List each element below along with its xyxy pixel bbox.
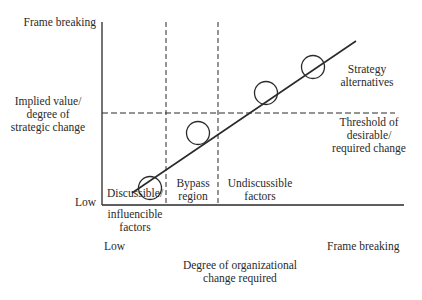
- region-label-line: Undiscussible: [222, 177, 298, 190]
- region-bypass-label: Bypass region: [168, 177, 218, 203]
- region-label-line: region: [168, 190, 218, 203]
- region-label-line: Bypass: [168, 177, 218, 190]
- strategy-alternative-circle: [255, 82, 278, 105]
- strategy-alternative-circle: [187, 122, 210, 145]
- y-axis-low-label: Low: [0, 196, 96, 209]
- region-label-line: factors: [103, 221, 167, 234]
- threshold-label: Threshold of desirable/ required change: [322, 116, 416, 155]
- strategy-label-line: Strategy: [332, 63, 402, 76]
- region-undiscussible-label: Undiscussible factors: [222, 177, 298, 203]
- y-axis-title-line: strategic change: [0, 121, 96, 134]
- x-axis-right-label: Frame breaking: [327, 240, 400, 253]
- strategy-alternative-circle: [302, 56, 325, 79]
- threshold-label-line: desirable/: [322, 129, 416, 142]
- y-axis-top-label: Frame breaking: [0, 16, 96, 29]
- region-label-line: Discussible/: [103, 187, 167, 200]
- x-axis-low-label: Low: [104, 240, 125, 253]
- y-axis-title-line: Implied value/: [0, 95, 96, 108]
- region-discussible-label-continued: influencible factors: [103, 208, 167, 234]
- x-axis-title-line: change required: [170, 272, 310, 285]
- threshold-label-line: Threshold of: [322, 116, 416, 129]
- region-label-line: influencible: [103, 208, 167, 221]
- region-discussible-label: Discussible/: [103, 187, 167, 200]
- y-axis-title-line: degree of: [0, 108, 96, 121]
- x-axis-title: Degree of organizational change required: [170, 259, 310, 285]
- x-axis-title-line: Degree of organizational: [170, 259, 310, 272]
- strategy-label-line: alternatives: [332, 76, 402, 89]
- threshold-label-line: required change: [322, 142, 416, 155]
- y-axis-title: Implied value/ degree of strategic chang…: [0, 95, 96, 134]
- region-label-line: factors: [222, 190, 298, 203]
- strategy-alternatives-label: Strategy alternatives: [332, 63, 402, 89]
